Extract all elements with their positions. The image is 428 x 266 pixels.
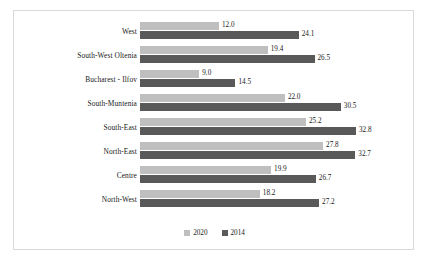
chart-category-row: North-West18.227.2	[14, 187, 415, 211]
bar-2014-south-muntenia[interactable]: 30.5	[140, 103, 415, 111]
bar-value-label: 14.5	[235, 78, 251, 86]
category-axis-label: Centre	[14, 163, 137, 187]
bar-rect[interactable]	[140, 103, 341, 111]
category-axis-label: South-Muntenia	[14, 91, 137, 115]
bar-2014-centre[interactable]: 26.7	[140, 175, 415, 183]
bar-rect[interactable]	[140, 190, 260, 198]
bar-rect[interactable]	[140, 94, 285, 102]
bar-value-label: 27.2	[319, 198, 335, 206]
bar-rect[interactable]	[140, 142, 323, 150]
category-axis-label: Bucharest - Ilfov	[14, 67, 137, 91]
legend-label: 2020	[193, 229, 207, 237]
category-bar-group: 19.426.5	[140, 43, 415, 67]
bar-value-label: 25.2	[306, 117, 322, 125]
chart-category-row: Centre19.926.7	[14, 163, 415, 187]
bar-value-label: 22.0	[285, 93, 301, 101]
bar-2020-centre[interactable]: 19.9	[140, 166, 415, 174]
chart-category-row: South-West Oltenia19.426.5	[14, 43, 415, 67]
bar-rect[interactable]	[140, 22, 219, 30]
category-axis-label: South-West Oltenia	[14, 43, 137, 67]
bar-2014-north-east[interactable]: 32.7	[140, 151, 415, 159]
bar-value-label: 32.8	[356, 126, 372, 134]
category-axis-label: West	[14, 19, 137, 43]
legend-label: 2014	[231, 229, 245, 237]
bar-2020-south-west-oltenia[interactable]: 19.4	[140, 46, 415, 54]
category-axis-label: North-West	[14, 187, 137, 211]
bar-2014-south-west-oltenia[interactable]: 26.5	[140, 55, 415, 63]
bar-value-label: 26.7	[316, 174, 332, 182]
bar-value-label: 26.5	[315, 54, 331, 62]
chart-category-row: South-Muntenia22.030.5	[14, 91, 415, 115]
bar-value-label: 9.0	[199, 69, 211, 77]
category-bar-group: 9.014.5	[140, 67, 415, 91]
bar-value-label: 18.2	[260, 189, 276, 197]
bar-value-label: 12.0	[219, 21, 235, 29]
legend-swatch-icon	[184, 230, 190, 236]
bar-2014-north-west[interactable]: 27.2	[140, 199, 415, 207]
bar-rect[interactable]	[140, 175, 316, 183]
bar-value-label: 32.7	[355, 150, 371, 158]
bar-rect[interactable]	[140, 79, 235, 87]
bar-2020-north-east[interactable]: 27.8	[140, 142, 415, 150]
bar-value-label: 27.8	[323, 141, 339, 149]
bar-2020-west[interactable]: 12.0	[140, 22, 415, 30]
bar-rect[interactable]	[140, 46, 268, 54]
bar-2020-south-east[interactable]: 25.2	[140, 118, 415, 126]
bar-2014-west[interactable]: 24.1	[140, 31, 415, 39]
bar-2014-south-east[interactable]: 32.8	[140, 127, 415, 135]
chart-legend: 20202014	[14, 226, 415, 240]
bar-value-label: 30.5	[341, 102, 357, 110]
legend-item-2014[interactable]: 2014	[222, 229, 245, 237]
legend-swatch-icon	[222, 230, 228, 236]
category-bar-group: 22.030.5	[140, 91, 415, 115]
bar-2020-south-muntenia[interactable]: 22.0	[140, 94, 415, 102]
chart-frame: West12.024.1South-West Oltenia19.426.5Bu…	[13, 10, 414, 250]
bar-rect[interactable]	[140, 31, 299, 39]
bar-2014-bucharest-ilfov[interactable]: 14.5	[140, 79, 415, 87]
bar-value-label: 24.1	[299, 30, 315, 38]
chart-category-row: West12.024.1	[14, 19, 415, 43]
bar-value-label: 19.9	[271, 165, 287, 173]
plot-area: West12.024.1South-West Oltenia19.426.5Bu…	[14, 11, 415, 222]
bar-rect[interactable]	[140, 151, 355, 159]
category-axis-label: South-East	[14, 115, 137, 139]
bar-value-label: 19.4	[268, 45, 284, 53]
category-bar-group: 25.232.8	[140, 115, 415, 139]
bar-rect[interactable]	[140, 199, 319, 207]
chart-category-row: Bucharest - Ilfov9.014.5	[14, 67, 415, 91]
category-bar-group: 12.024.1	[140, 19, 415, 43]
bar-rect[interactable]	[140, 127, 356, 135]
bar-rect[interactable]	[140, 55, 315, 63]
bar-rect[interactable]	[140, 118, 306, 126]
category-axis-label: North-East	[14, 139, 137, 163]
chart-category-row: South-East25.232.8	[14, 115, 415, 139]
legend-item-2020[interactable]: 2020	[184, 229, 207, 237]
chart-category-row: North-East27.832.7	[14, 139, 415, 163]
bar-rect[interactable]	[140, 70, 199, 78]
bar-2020-north-west[interactable]: 18.2	[140, 190, 415, 198]
bar-2020-bucharest-ilfov[interactable]: 9.0	[140, 70, 415, 78]
category-bar-group: 19.926.7	[140, 163, 415, 187]
category-bar-group: 18.227.2	[140, 187, 415, 211]
category-bar-group: 27.832.7	[140, 139, 415, 163]
bar-rect[interactable]	[140, 166, 271, 174]
